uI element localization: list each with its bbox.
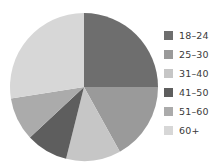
- legend-item-51-60[interactable]: 51–60: [164, 102, 221, 121]
- legend-label-25-30: 25–30: [179, 50, 209, 60]
- chart-legend: 18–24 25–30 31–40 41–50 51–60 60+: [164, 26, 221, 140]
- pie-chart-plot-area: [0, 0, 163, 167]
- legend-item-60-plus[interactable]: 60+: [164, 121, 221, 140]
- pie-slice-group: [10, 13, 158, 161]
- legend-swatch-icon-51-60: [164, 107, 173, 116]
- legend-swatch-icon-18-24: [164, 31, 173, 40]
- legend-swatch-icon-41-50: [164, 88, 173, 97]
- legend-swatch-icon-25-30: [164, 50, 173, 59]
- legend-label-41-50: 41–50: [179, 88, 209, 98]
- legend-label-18-24: 18–24: [179, 31, 209, 41]
- legend-label-60-plus: 60+: [179, 126, 200, 136]
- legend-item-25-30[interactable]: 25–30: [164, 45, 221, 64]
- legend-swatch-icon-60-plus: [164, 126, 173, 135]
- pie-slice-60[interactable]: [10, 13, 84, 99]
- legend-item-18-24[interactable]: 18–24: [164, 26, 221, 45]
- pie-chart-svg: [0, 0, 163, 167]
- legend-label-31-40: 31–40: [179, 69, 209, 79]
- legend-item-41-50[interactable]: 41–50: [164, 83, 221, 102]
- legend-item-31-40[interactable]: 31–40: [164, 64, 221, 83]
- legend-label-51-60: 51–60: [179, 107, 209, 117]
- pie-slice-18-24[interactable]: [84, 13, 158, 87]
- legend-swatch-icon-31-40: [164, 69, 173, 78]
- pie-chart-figure: 18–24 25–30 31–40 41–50 51–60 60+: [0, 0, 221, 167]
